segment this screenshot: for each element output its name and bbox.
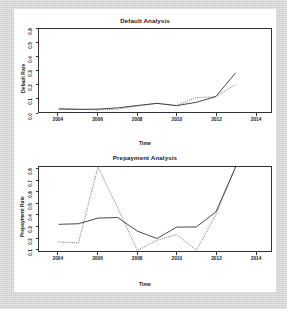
y-tick-mark	[36, 84, 39, 85]
x-tick-label: 2010	[171, 117, 182, 122]
y-tick-mark	[36, 226, 39, 227]
series-line-actual	[59, 73, 236, 110]
y-tick-mark	[36, 70, 39, 71]
y-tick-mark	[36, 168, 39, 169]
y-tick-mark	[36, 214, 39, 215]
y-tick-label: 0.2	[29, 238, 34, 244]
x-tick-label: 2008	[132, 256, 143, 261]
y-tick-label: 0.4	[29, 215, 34, 221]
x-tick-label: 2014	[251, 117, 262, 122]
x-tick-mark	[57, 113, 58, 116]
plot-canvas: Default Analysis Default Rate Time 0.00.…	[14, 9, 276, 292]
y-tick-label: 0.1	[29, 250, 34, 256]
chart-title-prepayment: Prepayment Analysis	[14, 154, 276, 162]
y-tick-label: 0.6	[29, 191, 34, 197]
y-tick-label: 0.8	[29, 168, 34, 174]
x-tick-label: 2014	[251, 256, 262, 261]
x-tick-label: 2006	[92, 117, 103, 122]
x-tick-mark	[176, 113, 177, 116]
x-tick-label: 2006	[92, 256, 103, 261]
y-tick-mark	[36, 238, 39, 239]
x-tick-mark	[97, 113, 98, 116]
y-tick-label: 0.7	[29, 180, 34, 186]
x-tick-mark	[256, 113, 257, 116]
y-tick-label: 0.5	[29, 203, 34, 209]
y-tick-mark	[36, 180, 39, 181]
x-tick-mark	[216, 113, 217, 116]
y-tick-label: 0.1	[29, 99, 34, 105]
series-line-forecast	[59, 167, 236, 250]
y-tick-label: 0.3	[29, 70, 34, 76]
y-tick-mark	[36, 203, 39, 204]
plot-area-prepayment	[38, 166, 272, 252]
chart-panel-default-analysis: Default Analysis Default Rate Time 0.00.…	[14, 9, 276, 151]
series-layer-prepayment	[39, 167, 271, 251]
y-tick-label: 0.4	[29, 56, 34, 62]
y-tick-label: 0.2	[29, 85, 34, 91]
x-axis-label-prepayment: Time	[14, 281, 276, 287]
chart-title-default: Default Analysis	[14, 17, 276, 25]
x-tick-mark	[216, 252, 217, 255]
y-tick-mark	[36, 191, 39, 192]
y-axis-label-default: Default Rate	[20, 64, 26, 93]
y-tick-mark	[36, 98, 39, 99]
x-tick-label: 2012	[211, 117, 222, 122]
y-tick-label: 0.0	[29, 113, 34, 119]
x-tick-label: 2008	[132, 117, 143, 122]
y-tick-mark	[36, 56, 39, 57]
x-tick-label: 2012	[211, 256, 222, 261]
series-line-forecast	[59, 84, 236, 110]
x-tick-mark	[97, 252, 98, 255]
y-tick-label: 0.3	[29, 226, 34, 232]
y-tick-mark	[36, 28, 39, 29]
y-tick-label: 0.5	[29, 42, 34, 48]
x-tick-label: 2004	[52, 256, 63, 261]
y-tick-mark	[36, 249, 39, 250]
x-tick-mark	[137, 252, 138, 255]
plot-area-default	[38, 28, 272, 113]
x-tick-label: 2010	[171, 256, 182, 261]
y-axis-label-prepayment: Prepayment Rate	[19, 196, 25, 237]
y-tick-label: 0.6	[29, 28, 34, 34]
y-tick-mark	[36, 113, 39, 114]
x-tick-mark	[256, 252, 257, 255]
x-tick-mark	[57, 252, 58, 255]
x-tick-mark	[137, 113, 138, 116]
chart-panel-prepayment-analysis: Prepayment Analysis Prepayment Rate Time…	[14, 151, 276, 292]
x-axis-label-default: Time	[14, 140, 276, 146]
series-layer-default	[39, 29, 271, 112]
y-tick-mark	[36, 42, 39, 43]
x-tick-label: 2004	[52, 117, 63, 122]
x-tick-mark	[176, 252, 177, 255]
